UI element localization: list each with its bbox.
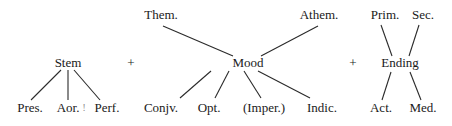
- stem-label: Stem: [55, 56, 82, 70]
- sec-label: Sec.: [412, 8, 434, 22]
- imper-label: (Imper.): [243, 101, 285, 115]
- morphology-diagram: Stem Pres. Aor. ! Perf. + Them. Athem. M…: [0, 0, 452, 126]
- perf-label: Perf.: [95, 101, 120, 115]
- indic-label: Indic.: [307, 101, 337, 115]
- act-label: Act.: [370, 101, 392, 115]
- conjv-label: Conjv.: [144, 101, 178, 115]
- plus-operator-1: +: [127, 56, 134, 70]
- opt-label: Opt.: [198, 101, 221, 115]
- prim-label: Prim.: [371, 8, 400, 22]
- plus-operator-2: +: [349, 56, 356, 70]
- pres-label: Pres.: [17, 101, 43, 115]
- them-label: Them.: [144, 8, 178, 22]
- mood-label: Mood: [232, 56, 263, 70]
- ending-label: Ending: [381, 56, 419, 70]
- med-label: Med.: [409, 101, 436, 115]
- athem-label: Athem.: [300, 8, 339, 22]
- aor-label: Aor.: [57, 101, 80, 115]
- mark-label: !: [82, 100, 86, 114]
